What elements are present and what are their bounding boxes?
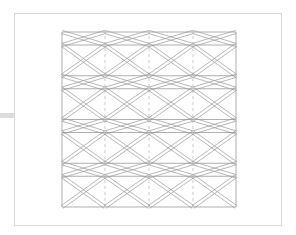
web-diagonal — [192, 131, 235, 162]
web-diagonal — [106, 134, 150, 165]
web-diagonal — [106, 87, 150, 118]
web-diagonal — [194, 178, 237, 209]
web-diagonal — [192, 87, 235, 118]
web-diagonal — [104, 175, 148, 206]
web-diagonal — [194, 87, 237, 118]
web-diagonal — [106, 44, 150, 75]
web-diagonal — [150, 134, 194, 165]
web-diagonal — [61, 44, 104, 75]
web-diagonal — [63, 178, 106, 209]
web-diagonal — [104, 44, 148, 75]
web-diagonal — [192, 44, 235, 75]
web-diagonal — [104, 178, 148, 209]
web-diagonal — [150, 178, 194, 209]
web-diagonal — [194, 46, 237, 77]
web-diagonal — [61, 46, 104, 77]
web-diagonal — [63, 46, 106, 77]
web-diagonal — [192, 178, 235, 209]
web-diagonal — [194, 134, 237, 165]
web-diagonal — [148, 178, 192, 209]
web-diagonal — [150, 90, 194, 121]
web-diagonal — [61, 90, 104, 121]
web-diagonal — [63, 44, 106, 75]
web-diagonal — [61, 134, 104, 165]
web-diagonal — [63, 131, 106, 162]
web-diagonal — [192, 134, 235, 165]
web-diagonal — [150, 175, 194, 206]
web-diagonal — [148, 175, 192, 206]
web-diagonal — [194, 44, 237, 75]
web-diagonal — [148, 131, 192, 162]
web-diagonal — [150, 44, 194, 75]
web-diagonal — [106, 175, 150, 206]
web-diagonal — [150, 131, 194, 162]
web-diagonal — [194, 90, 237, 121]
web-diagonal — [148, 90, 192, 121]
web-diagonal — [63, 87, 106, 118]
web-diagonal — [61, 131, 104, 162]
web-diagonal — [148, 134, 192, 165]
web-diagonal — [104, 46, 148, 77]
web-diagonal — [148, 87, 192, 118]
web-diagonal — [194, 175, 237, 206]
web-diagonal — [148, 44, 192, 75]
web-diagonal — [150, 46, 194, 77]
web-diagonal — [104, 131, 148, 162]
truss-elevation-drawing — [0, 0, 296, 235]
web-diagonal — [104, 90, 148, 121]
web-diagonal — [194, 131, 237, 162]
web-diagonal — [61, 87, 104, 118]
screenshot-root — [0, 0, 296, 235]
web-diagonal — [104, 134, 148, 165]
web-diagonal — [192, 90, 235, 121]
web-diagonal — [192, 46, 235, 77]
web-diagonal — [192, 175, 235, 206]
web-diagonal — [63, 175, 106, 206]
web-diagonal — [61, 178, 104, 209]
web-diagonal — [106, 90, 150, 121]
web-diagonal — [61, 175, 104, 206]
web-diagonal — [106, 131, 150, 162]
web-diagonal — [148, 46, 192, 77]
web-diagonal — [104, 87, 148, 118]
web-diagonal — [63, 90, 106, 121]
web-diagonal — [106, 46, 150, 77]
web-diagonal — [63, 134, 106, 165]
web-diagonal — [150, 87, 194, 118]
web-diagonal — [106, 178, 150, 209]
